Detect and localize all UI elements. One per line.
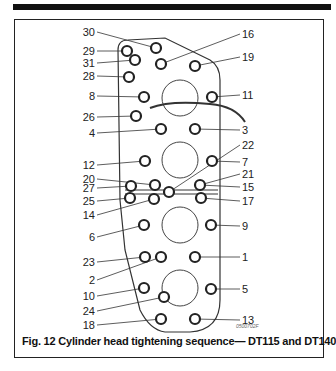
bolt-icon (125, 193, 135, 203)
bore-2 (162, 142, 198, 178)
bolt-icon (139, 220, 149, 230)
bolt-label: 15 (242, 181, 254, 193)
bolt-label: 27 (83, 182, 95, 194)
bolt-icon (150, 180, 160, 190)
bolt-label: 2 (89, 274, 95, 286)
bolt-icon (156, 252, 166, 262)
bolt-label: 9 (242, 220, 248, 232)
bolt-icon (139, 92, 149, 102)
bolt-icon (156, 59, 166, 69)
bolt-label: 28 (83, 70, 95, 82)
bolt-icon (130, 55, 140, 65)
figure-caption: Fig. 12 Cylinder head tightening sequenc… (22, 335, 336, 347)
bolt-label: 26 (83, 111, 95, 123)
bolt-label: 10 (83, 290, 95, 302)
bolt-icon (149, 194, 159, 204)
bolt-label: 4 (89, 127, 95, 139)
bolt-label: 1 (242, 251, 248, 263)
bolt-icon (164, 187, 174, 197)
bolt-label: 17 (242, 195, 254, 207)
bolt-label: 3 (242, 124, 248, 136)
bolt-label: 25 (83, 195, 95, 207)
bolt-icon (124, 72, 134, 82)
bore-3 (162, 207, 198, 243)
bolt-icon (195, 180, 205, 190)
bolt-icon (190, 252, 200, 262)
bolt-label: 22 (242, 139, 254, 151)
bolt-icon (139, 283, 149, 293)
bolt-label: 5 (242, 283, 248, 295)
bolt-label: 18 (83, 319, 95, 331)
bolt-label: 21 (242, 168, 254, 180)
bolt-icon (190, 61, 200, 71)
bolt-icon (122, 46, 132, 56)
bore-1 (162, 80, 198, 116)
bolt-icon (190, 124, 200, 134)
bolt-label: 12 (83, 159, 95, 171)
bolt-icon (131, 111, 141, 121)
bolt-icon (151, 43, 161, 53)
bolt-label: 6 (89, 231, 95, 243)
bolt-label: 11 (242, 89, 253, 101)
bolt-icon (207, 92, 217, 102)
bolt-label: 8 (89, 90, 95, 102)
bolt-label: 24 (83, 305, 95, 317)
bolt-icon (156, 314, 166, 324)
bolt-icon (206, 284, 216, 294)
bolt-icon (126, 181, 136, 191)
bolt-label: 14 (83, 209, 95, 221)
figure-code: 0500702F (236, 323, 259, 329)
bolt-label: 30 (83, 26, 95, 38)
bolt-icon (190, 314, 200, 324)
bolt-label: 19 (242, 51, 254, 63)
bolt-icon (156, 124, 166, 134)
bolt-label: 29 (83, 45, 95, 57)
bolt-icon (196, 193, 206, 203)
bolt-label: 23 (83, 256, 95, 268)
bolt-label: 31 (83, 57, 95, 69)
bolt-icon (206, 220, 216, 230)
bolt-label: 7 (242, 156, 248, 168)
bolt-icon (207, 156, 217, 166)
bolt-icon (159, 292, 169, 302)
bolt-icon (140, 252, 150, 262)
bolt-icon (140, 156, 150, 166)
bolt-label: 16 (242, 28, 254, 40)
